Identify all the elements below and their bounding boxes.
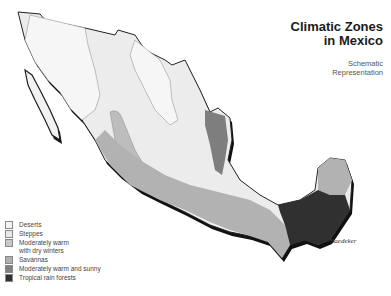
subtitle-line-2: Representation: [332, 68, 383, 77]
legend-label: Moderately warm and sunny: [19, 265, 101, 273]
legend-item-deserts: Deserts: [5, 221, 101, 229]
legend-label: Steppes: [19, 230, 43, 238]
swatch-steppes: [5, 230, 13, 238]
copyright-credit: © Baedeker: [323, 237, 357, 245]
map-subtitle: Schematic Representation: [332, 59, 383, 77]
legend-label: Savannas: [19, 256, 48, 264]
swatch-tropical-rain-forests: [5, 274, 13, 282]
swatch-moderately-warm-dry-winters: [5, 239, 13, 247]
legend-label: Moderately warmwith dry winters: [19, 239, 69, 255]
legend-item-savannas: Savannas: [5, 256, 101, 264]
title-line-2: in Mexico: [291, 34, 383, 48]
subtitle-line-1: Schematic: [332, 59, 383, 68]
legend-label: Tropical rain forests: [19, 274, 76, 282]
legend-label: Deserts: [19, 221, 41, 229]
title-line-1: Climatic Zones: [291, 20, 383, 34]
map-title: Climatic Zones in Mexico: [291, 20, 383, 48]
legend-item-tropical-rain-forests: Tropical rain forests: [5, 274, 101, 282]
swatch-savannas: [5, 256, 13, 264]
legend-item-moderately-warm-dry-winters: Moderately warmwith dry winters: [5, 239, 101, 255]
swatch-deserts: [5, 221, 13, 229]
legend-item-moderately-warm-sunny: Moderately warm and sunny: [5, 265, 101, 273]
legend: Deserts Steppes Moderately warmwith dry …: [5, 221, 101, 283]
swatch-moderately-warm-sunny: [5, 265, 13, 273]
legend-item-steppes: Steppes: [5, 230, 101, 238]
